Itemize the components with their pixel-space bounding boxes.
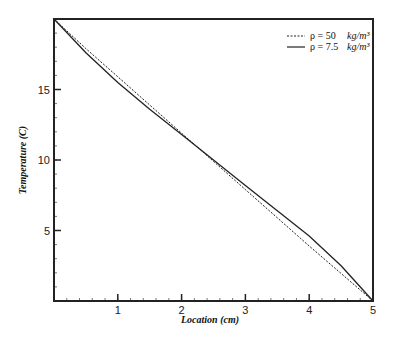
major-ticks (54, 90, 373, 302)
x-axis-title: Location (cm) (180, 314, 239, 326)
legend-unit-rho-50: kg/m³ (347, 30, 370, 41)
y-tick-label: 5 (44, 225, 50, 237)
x-tick-label: 4 (306, 304, 312, 316)
temperature-chart: 12345 51015 Location (cm) Temperature (C… (0, 0, 396, 340)
y-tick-label: 10 (38, 154, 50, 166)
y-axis-title: Temperature (C) (17, 126, 29, 194)
series-lines (54, 19, 373, 301)
y-tick-labels: 51015 (38, 84, 50, 237)
legend-label-rho-50: ρ = 50 (310, 30, 336, 41)
legend-unit-rho-7-5: kg/m³ (347, 41, 370, 52)
x-tick-label: 1 (115, 304, 121, 316)
x-tick-label: 5 (370, 304, 376, 316)
x-tick-label: 3 (242, 304, 248, 316)
legend: ρ = 50 kg/m³ ρ = 7.5 kg/m³ (287, 30, 370, 52)
series-line-rho-7-5 (54, 19, 373, 301)
y-tick-label: 15 (38, 84, 50, 96)
x-tick-labels: 12345 (115, 304, 376, 316)
legend-label-rho-7-5: ρ = 7.5 (310, 41, 338, 52)
